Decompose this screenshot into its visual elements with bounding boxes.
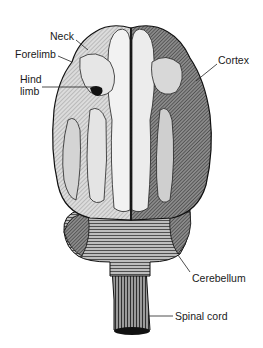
label-hind-limb-line1: Hind — [20, 73, 42, 85]
spinal-cord-shape — [112, 268, 150, 335]
brain-diagram: Neck Forelimb Hind limb Cortex Cerebellu… — [0, 0, 263, 348]
label-spinal-cord: Spinal cord — [175, 310, 228, 322]
cortex-leader-line — [196, 64, 217, 81]
label-neck: Neck — [50, 30, 74, 42]
label-cortex: Cortex — [218, 54, 249, 66]
label-forelimb: Forelimb — [15, 48, 56, 60]
cerebral-cortex-shape — [53, 26, 212, 220]
label-cerebellum: Cerebellum — [192, 272, 246, 284]
label-hind-limb-line2: limb — [20, 85, 39, 97]
forelimb-leader-line — [58, 56, 72, 62]
cerebellum-leader-line — [178, 255, 190, 272]
